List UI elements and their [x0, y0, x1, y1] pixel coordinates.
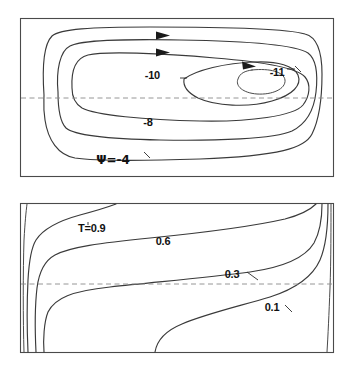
leader-line-01 [285, 305, 292, 312]
streamfunction-panel: -10 -11 -8 Ψ=-4 [21, 19, 334, 177]
contour-label-03: 0.3 [225, 268, 240, 280]
contour-t-0p1 [155, 204, 328, 352]
leader-line-03 [247, 272, 258, 280]
leader-line-psi-minus4 [144, 152, 150, 158]
contour-label-06: 0.6 [156, 235, 171, 247]
contour-label-minus10: -10 [145, 69, 160, 81]
contour-label-minus8: -8 [143, 116, 152, 128]
contour-label-minus11: -11 [270, 66, 285, 78]
contour-label-t09: T=0.9 [78, 222, 106, 234]
figure-canvas: -10 -11 -8 Ψ=-4 T= [0, 0, 352, 367]
contour-label-01: 0.1 [265, 301, 280, 313]
contour-t-left-wall [23, 204, 27, 352]
contour-figure: -10 -11 -8 Ψ=-4 T= [0, 0, 352, 367]
contour-label-psi-minus4: Ψ=-4 [96, 153, 130, 167]
flow-arrow-icon [156, 49, 170, 57]
temperature-panel-frame [21, 204, 334, 353]
temperature-panel: T=0.9 0.6 0.3 0.1 [21, 204, 334, 353]
streamfunction-panel-frame [21, 19, 334, 177]
flow-arrow-icon [156, 32, 170, 40]
